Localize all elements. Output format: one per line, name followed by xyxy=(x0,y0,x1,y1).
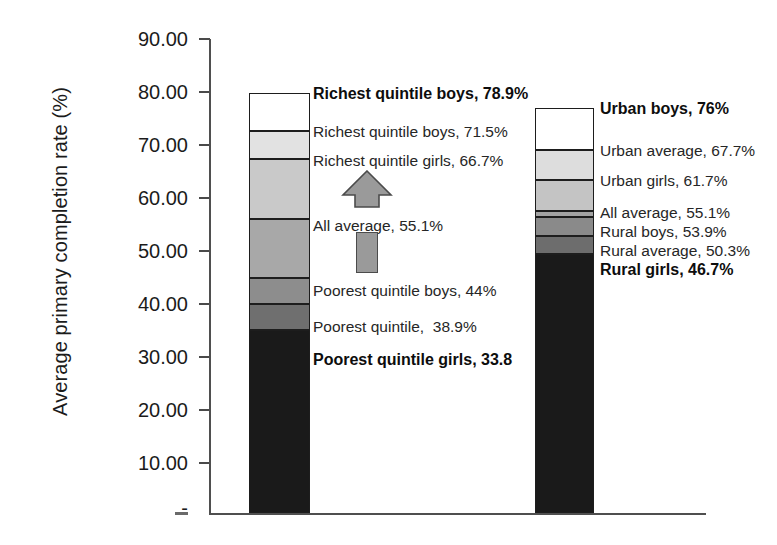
callout-richest-quintile-girls-667: Richest quintile girls, 66.7% xyxy=(313,153,503,169)
callout-poorest-quintile-boys-44: Poorest quintile boys, 44% xyxy=(313,283,497,299)
y-tick-mark-0 xyxy=(175,512,188,515)
bar-segment-urban-girls[interactable] xyxy=(535,180,594,211)
y-tick-label-90: 90.00 xyxy=(66,28,188,51)
callout-rural-boys-539: Rural boys, 53.9% xyxy=(600,224,727,240)
bar-segment-all-average[interactable] xyxy=(249,219,310,278)
callout-poorest-quintile-girls-338: Poorest quintile girls, 33.8 xyxy=(313,352,512,368)
y-axis-line xyxy=(209,39,211,515)
callout-urban-average-677: Urban average, 67.7% xyxy=(600,143,755,159)
stacked-bar-wealth-quintile[interactable] xyxy=(249,93,310,513)
bar-segment-richest-boys[interactable] xyxy=(249,131,310,159)
y-tick-label-20: 20.00 xyxy=(66,399,188,422)
bar-segment-urban-average[interactable] xyxy=(535,150,594,180)
callout-all-average-551-bar1: All average, 55.1% xyxy=(313,218,443,234)
bar-segment-urban-boys-top[interactable] xyxy=(535,108,594,150)
bar-segment-poorest-quintile[interactable] xyxy=(249,304,310,330)
bar-segment-poorest-boys[interactable] xyxy=(249,278,310,304)
callout-all-average-551-bar2: All average, 55.1% xyxy=(600,205,730,221)
y-tick-label-70: 70.00 xyxy=(66,134,188,157)
y-tick-label-60: 60.00 xyxy=(66,187,188,210)
callout-rural-girls-467: Rural girls, 46.7% xyxy=(600,262,733,278)
bar-segment-rural-boys[interactable] xyxy=(535,217,594,236)
bar-segment-richest-boys-top[interactable] xyxy=(249,93,310,131)
callout-rural-average-503: Rural average, 50.3% xyxy=(600,243,750,259)
callout-richest-quintile-boys-789: Richest quintile boys, 78.9% xyxy=(313,86,528,102)
y-tick-label-10: 10.00 xyxy=(66,452,188,475)
y-tick-label-80: 80.00 xyxy=(66,81,188,104)
growth-arrow-icon xyxy=(341,170,393,208)
bar-segment-rural-average[interactable] xyxy=(535,236,594,254)
stacked-bar-urban-rural[interactable] xyxy=(535,108,594,513)
x-axis-line xyxy=(209,513,706,515)
y-tick-label-30: 30.00 xyxy=(66,346,188,369)
callout-richest-quintile-boys-715: Richest quintile boys, 71.5% xyxy=(313,124,508,140)
chart-canvas: Average primary completion rate (%) 90.0… xyxy=(0,0,777,545)
y-tick-label-0: - xyxy=(66,497,188,520)
bar-segment-richest-girls[interactable] xyxy=(249,159,310,219)
y-tick-label-50: 50.00 xyxy=(66,240,188,263)
y-tick-label-40: 40.00 xyxy=(66,293,188,316)
growth-arrow-tail xyxy=(356,232,378,273)
callout-urban-boys-76: Urban boys, 76% xyxy=(600,101,729,117)
callout-urban-girls-617: Urban girls, 61.7% xyxy=(600,173,728,189)
callout-poorest-quintile-389: Poorest quintile, 38.9% xyxy=(313,319,477,335)
bar-segment-rural-girls[interactable] xyxy=(535,254,594,513)
bar-segment-poorest-girls[interactable] xyxy=(249,330,310,513)
